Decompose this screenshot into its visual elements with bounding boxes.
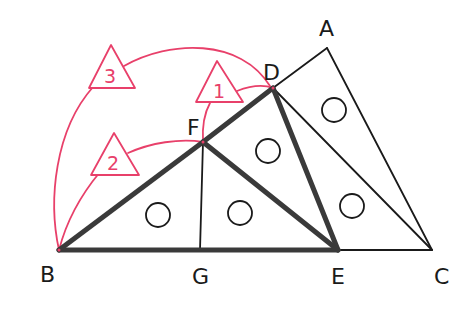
point-label-F: F — [187, 115, 200, 140]
annotation-label-2: 2 — [107, 152, 119, 174]
arc-3-lower — [54, 87, 93, 250]
point-label-D: D — [263, 60, 280, 85]
annotation-label-1: 1 — [213, 80, 225, 102]
annotation-label-3: 3 — [104, 65, 116, 87]
segment-BF — [59, 142, 203, 250]
segment-DC — [273, 88, 432, 250]
arc-3-upper — [124, 48, 270, 86]
point-label-G: G — [192, 264, 209, 289]
circle-mark-DEC — [340, 194, 364, 218]
geometry-diagram: 3 1 2 — [0, 0, 473, 311]
segment-DA — [273, 48, 327, 88]
vertex-dot-B — [58, 249, 61, 252]
point-label-C: C — [434, 264, 449, 289]
circle-mark-FGE — [228, 201, 252, 225]
circle-mark-DAC — [322, 98, 346, 122]
segment-AC — [327, 48, 432, 250]
point-label-B: B — [40, 262, 55, 287]
segment-FG — [200, 142, 203, 250]
diagram-canvas: 3 1 2 — [0, 0, 473, 311]
circle-mark-FDE — [256, 139, 280, 163]
vertex-dot-D — [272, 87, 275, 90]
arc-2-lower — [59, 172, 100, 250]
point-label-E: E — [331, 264, 345, 289]
circle-mark-BFG — [146, 203, 170, 227]
point-label-A: A — [319, 16, 334, 41]
vertex-dot-F — [202, 141, 205, 144]
